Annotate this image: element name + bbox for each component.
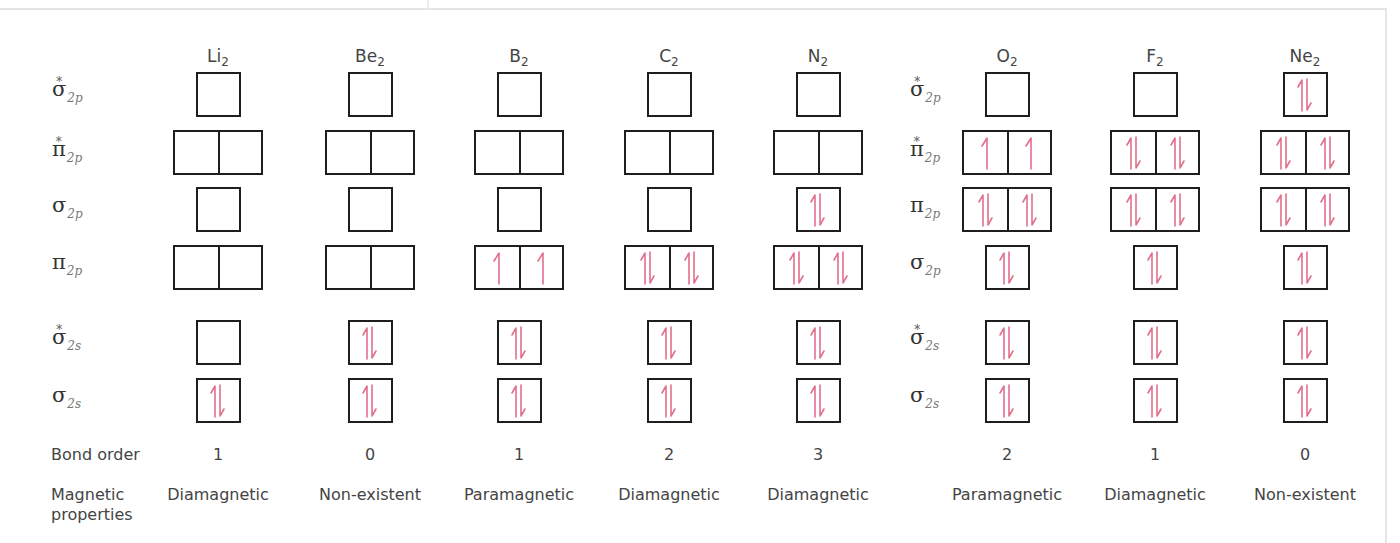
- orbital-cell: [987, 380, 1028, 421]
- orbital-subscript: 2s: [67, 339, 81, 353]
- orbital-box: [647, 378, 692, 423]
- electron-pair-icon: [1169, 193, 1187, 227]
- orbital-subscript: 2p: [925, 207, 940, 221]
- orbital-cell: [499, 322, 540, 363]
- electron-pair-icon: [1146, 251, 1164, 285]
- electron-pair-icon: [639, 251, 657, 285]
- antibonding-star: *: [914, 76, 924, 88]
- orbital-box: [196, 72, 241, 117]
- electron-pair-icon: [1125, 136, 1143, 170]
- electron-pair-icon: [1296, 326, 1314, 360]
- molecule-label-li: Li2: [168, 46, 268, 69]
- orbital-cell: [1305, 189, 1348, 230]
- electron-pair-icon: [832, 251, 850, 285]
- orbital-cell: [798, 322, 839, 363]
- molecule-label-b: B2: [469, 46, 569, 69]
- magnetic-property-value: Paramagnetic: [932, 485, 1082, 504]
- electron-up-icon: [1024, 136, 1036, 170]
- magnetic-property-value: Diamagnetic: [1080, 485, 1230, 504]
- orbital-cell: [218, 132, 261, 173]
- orbital-box: [348, 187, 393, 232]
- orbital-box: [962, 130, 1052, 175]
- orbital-cell: [1262, 189, 1305, 230]
- orbital-cell: [350, 380, 391, 421]
- orbital-cell: [476, 132, 519, 173]
- orbital-cell: [818, 247, 861, 288]
- orbital-box: [796, 72, 841, 117]
- orbital-cell: [987, 74, 1028, 115]
- orbital-box: [497, 378, 542, 423]
- orbital-box: [1260, 130, 1350, 175]
- orbital-box: [1283, 245, 1328, 290]
- orbital-cell: [798, 189, 839, 230]
- orbital-cell: [1007, 132, 1050, 173]
- orbital-subscript: 2p: [67, 264, 82, 278]
- electron-pair-icon: [510, 384, 528, 418]
- orbital-cell: [964, 132, 1007, 173]
- electron-up-icon: [536, 251, 548, 285]
- orbital-subscript: 2p: [67, 91, 82, 105]
- bond-order-value: 0: [1235, 445, 1375, 464]
- orbital-cell: [1285, 322, 1326, 363]
- molecule-name: Be: [355, 46, 377, 66]
- electron-pair-icon: [1146, 384, 1164, 418]
- row-label-pi2p_star-left: π*2p: [52, 138, 82, 164]
- orbital-cell: [218, 247, 261, 288]
- orbital-box: [497, 320, 542, 365]
- right-border-line: [1385, 8, 1387, 543]
- orbital-box: [196, 187, 241, 232]
- orbital-box: [624, 245, 714, 290]
- electron-pair-icon: [788, 251, 806, 285]
- antibonding-star: *: [56, 76, 66, 88]
- molecule-name: Li: [207, 46, 221, 66]
- orbital-box: [173, 245, 263, 290]
- orbital-cell: [1155, 132, 1198, 173]
- electron-pair-icon: [660, 384, 678, 418]
- electron-pair-icon: [683, 251, 701, 285]
- electron-pair-icon: [1275, 136, 1293, 170]
- magnetic-property-value: Non-existent: [1230, 485, 1380, 504]
- orbital-box: [325, 130, 415, 175]
- orbital-box: [1110, 130, 1200, 175]
- electron-pair-icon: [1275, 193, 1293, 227]
- orbital-cell: [370, 132, 413, 173]
- orbital-symbol: σ: [910, 383, 924, 407]
- electron-pair-icon: [809, 326, 827, 360]
- orbital-cell: [1112, 189, 1155, 230]
- electron-pair-icon: [1319, 136, 1337, 170]
- orbital-box: [1283, 378, 1328, 423]
- molecule-subscript: 2: [1010, 55, 1018, 69]
- molecule-subscript: 2: [1313, 55, 1321, 69]
- orbital-cell: [350, 189, 391, 230]
- electron-up-icon: [492, 251, 504, 285]
- orbital-cell: [649, 74, 690, 115]
- orbital-cell: [350, 322, 391, 363]
- magnetic-property-value: Diamagnetic: [594, 485, 744, 504]
- orbital-cell: [798, 380, 839, 421]
- orbital-cell: [1135, 380, 1176, 421]
- orbital-cell: [175, 132, 218, 173]
- row-label-pi2p-right: π2p: [910, 195, 940, 220]
- molecule-subscript: 2: [221, 55, 229, 69]
- orbital-cell: [1262, 132, 1305, 173]
- orbital-box: [474, 130, 564, 175]
- orbital-box: [1133, 245, 1178, 290]
- orbital-cell: [798, 74, 839, 115]
- orbital-cell: [1285, 380, 1326, 421]
- bond-order-value: 1: [449, 445, 589, 464]
- electron-pair-icon: [1021, 193, 1039, 227]
- electron-pair-icon: [361, 384, 379, 418]
- orbital-box: [173, 130, 263, 175]
- orbital-cell: [519, 247, 562, 288]
- electron-pair-icon: [660, 326, 678, 360]
- orbital-cell: [370, 247, 413, 288]
- electron-pair-icon: [1296, 78, 1314, 112]
- orbital-cell: [1285, 247, 1326, 288]
- magnetic-label-line2: properties: [51, 505, 133, 525]
- orbital-box: [348, 320, 393, 365]
- orbital-box: [773, 130, 863, 175]
- molecule-label-be: Be2: [320, 46, 420, 69]
- orbital-cell: [175, 247, 218, 288]
- orbital-box: [773, 245, 863, 290]
- orbital-box: [474, 245, 564, 290]
